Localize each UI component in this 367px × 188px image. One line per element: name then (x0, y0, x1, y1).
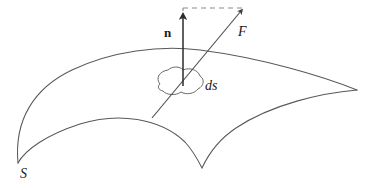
surface-label: S (20, 167, 27, 181)
area-element-patch (158, 67, 203, 95)
diagram-svg (0, 0, 367, 188)
normal-vector-label: n (164, 26, 171, 39)
surface-bottom-edge (18, 90, 357, 168)
figure-canvas: n F ds S (0, 0, 367, 188)
area-element-label: ds (205, 79, 217, 93)
force-vector-label: F (238, 25, 247, 39)
surface-top-edge (17, 48, 357, 163)
